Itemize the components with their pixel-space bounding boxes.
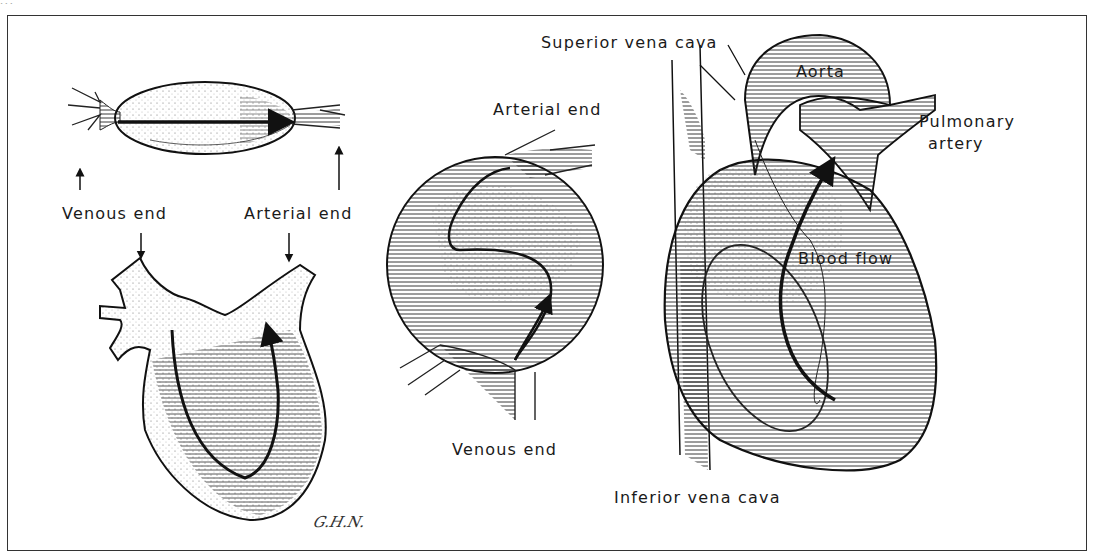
label-inferior-vena-cava: Inferior vena cava <box>614 488 781 507</box>
label-arterial-end-top: Arterial end <box>244 204 353 223</box>
label-blood-flow: Blood flow <box>798 249 893 268</box>
label-arterial-end-loop: Arterial end <box>493 100 602 119</box>
label-aorta: Aorta <box>796 62 845 81</box>
label-superior-vena-cava: Superior vena cava <box>541 33 718 52</box>
straight-heart-tube <box>68 82 345 190</box>
looped-heart-tube <box>387 130 603 420</box>
bending-heart-tube <box>100 233 326 520</box>
label-pulmonary-artery-line1: Pulmonary <box>919 112 1015 131</box>
heart-development-illustration <box>0 0 1097 558</box>
artist-signature: G.H.N. <box>312 513 368 531</box>
label-pulmonary-artery-line2: artery <box>928 134 984 153</box>
label-venous-end-loop: Venous end <box>452 440 557 459</box>
label-venous-end-top: Venous end <box>62 204 167 223</box>
